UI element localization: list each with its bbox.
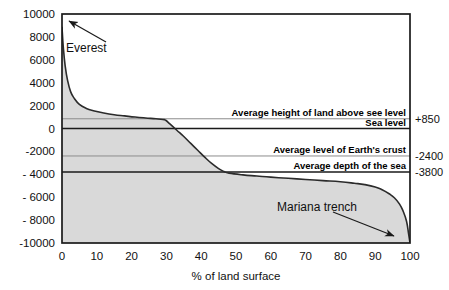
x-axis-title: % of land surface	[192, 270, 281, 282]
x-tick-90: 90	[369, 250, 382, 262]
y-axis-tick-labels: 1000080006000400020000-2000- 4000- 6000-…	[19, 8, 55, 249]
y-tick--10000: -10000	[19, 237, 55, 249]
y-tick--6000: - 6000	[22, 191, 55, 203]
x-tick-80: 80	[334, 250, 347, 262]
reference-value-avg-sea-depth: -3800	[415, 166, 443, 178]
x-tick-10: 10	[90, 250, 103, 262]
y-tick-4000: 4000	[29, 77, 55, 89]
x-tick-0: 0	[59, 250, 65, 262]
reference-value-avg-land-height: +850	[415, 113, 440, 125]
reference-label-avg-crust-level: Average level of Earth's crust	[273, 144, 407, 155]
chart-canvas: 1000080006000400020000-2000- 4000- 6000-…	[0, 0, 449, 290]
everest-label: Everest	[66, 41, 107, 55]
y-tick-2000: 2000	[29, 100, 55, 112]
x-tick-20: 20	[125, 250, 138, 262]
reference-label-avg-sea-depth: Average depth of the sea	[293, 160, 406, 171]
reference-label-sea-level: Sea level	[365, 117, 406, 128]
y-tick--2000: -2000	[26, 145, 55, 157]
x-tick-100: 100	[400, 250, 419, 262]
x-tick-30: 30	[160, 250, 173, 262]
hypsometric-curve-chart: 1000080006000400020000-2000- 4000- 6000-…	[0, 0, 449, 290]
x-tick-70: 70	[299, 250, 312, 262]
y-tick--8000: - 8000	[22, 214, 55, 226]
y-tick-0: 0	[49, 123, 55, 135]
y-tick-6000: 6000	[29, 54, 55, 66]
mariana-trench-label: Mariana trench	[277, 200, 357, 214]
x-tick-40: 40	[195, 250, 208, 262]
x-tick-60: 60	[264, 250, 277, 262]
y-tick-8000: 8000	[29, 31, 55, 43]
y-tick--4000: - 4000	[22, 168, 55, 180]
x-tick-50: 50	[230, 250, 243, 262]
reference-value-labels: +850-2400-3800	[415, 113, 443, 178]
reference-value-avg-crust-level: -2400	[415, 150, 443, 162]
y-tick-10000: 10000	[23, 8, 55, 20]
x-axis-tick-labels: 0102030405060708090100	[59, 250, 420, 262]
